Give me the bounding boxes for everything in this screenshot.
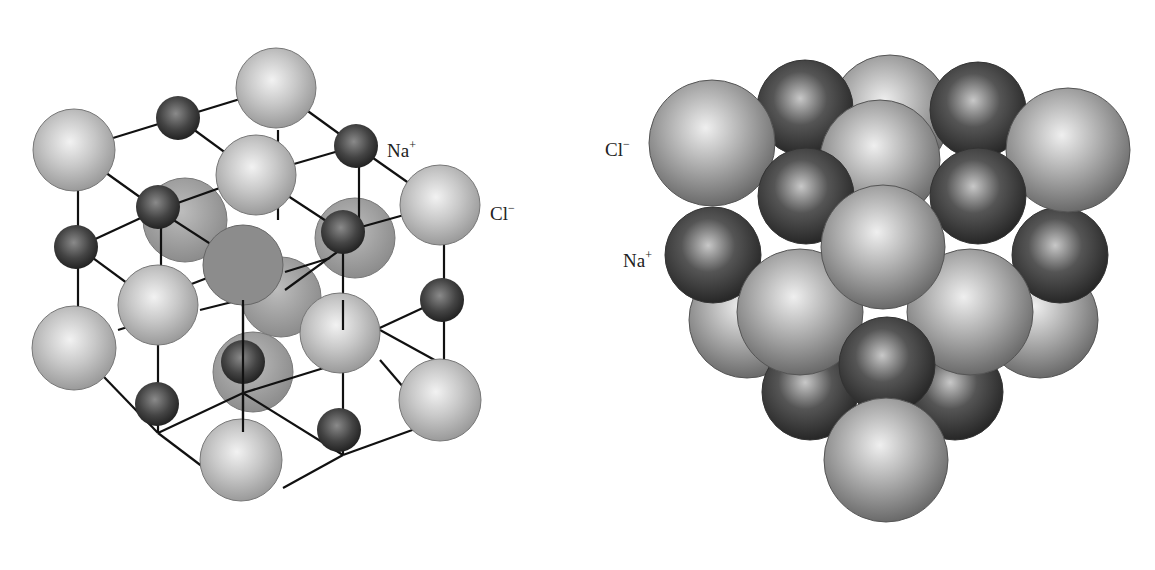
na-ion-sphere [156, 96, 200, 140]
na-ion-sphere [54, 225, 98, 269]
na-ion-sphere [321, 210, 365, 254]
cl-ion-sphere [32, 306, 116, 390]
ball-and-stick-model [32, 48, 481, 501]
cl-ion-sphere [821, 185, 945, 309]
na-ion-sphere [420, 278, 464, 322]
cl-ion-sphere [649, 80, 775, 206]
na-ion-label-left: Na+ [387, 140, 416, 162]
na-ion-sphere [317, 408, 361, 452]
cl-ion-sphere [33, 109, 115, 191]
na-ion-sphere [930, 148, 1026, 244]
cl-ion-sphere [216, 135, 296, 215]
cl-ion-sphere [203, 225, 283, 305]
na-ion-label-right: Na+ [623, 250, 652, 272]
cl-ion-label-left: Cl− [490, 203, 515, 225]
na-ion-sphere [136, 185, 180, 229]
cl-ion-sphere [399, 359, 481, 441]
cl-ion-sphere [236, 48, 316, 128]
cl-ion-sphere [400, 165, 480, 245]
cl-ion-sphere [118, 265, 198, 345]
cl-ion-sphere [824, 398, 948, 522]
space-filling-model [649, 55, 1130, 522]
cl-ion-label-right: Cl− [605, 139, 630, 161]
nacl-figure [0, 0, 1155, 570]
na-ion-sphere [135, 382, 179, 426]
cl-ion-sphere [200, 419, 282, 501]
na-ion-sphere [334, 124, 378, 168]
cl-ion-sphere [300, 293, 380, 373]
